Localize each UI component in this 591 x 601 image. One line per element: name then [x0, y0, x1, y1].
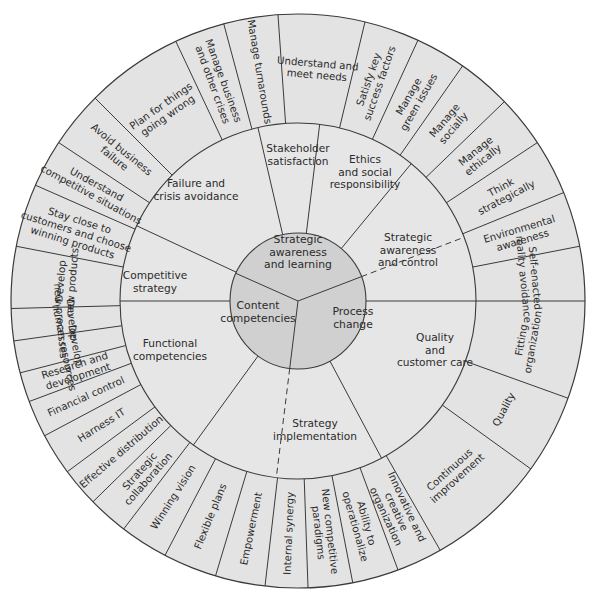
- middle-segment-label: Strategicawarenessand control: [378, 231, 438, 268]
- middle-segment-label: Stakeholdersatisfaction: [266, 142, 330, 167]
- core-segment-label: Strategicawarenessand learning: [264, 233, 332, 271]
- core-segment-label: Processchange: [333, 305, 374, 331]
- middle-segment-label: Functionalcompetencies: [133, 337, 207, 362]
- strategic-competencies-wheel: Understand andmeet needsSatisfy keysucce…: [0, 0, 591, 601]
